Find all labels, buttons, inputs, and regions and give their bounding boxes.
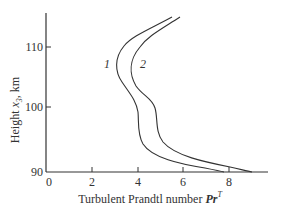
y-tick-label-90: 90 [31,165,43,179]
chart-canvas: 110 100 90 0 2 4 6 8 1 2 Height x3, km T… [0,0,281,210]
curve-label-1: 1 [104,57,110,71]
x-tick-label-0: 0 [46,175,52,189]
x-tick-label-6: 6 [180,175,186,189]
x-axis-title: Turbulent Prandtl number PrT [78,190,222,206]
x-tick-label-2: 2 [89,175,95,189]
x-ticks: 0 2 4 6 8 [46,167,232,189]
y-tick-label-100: 100 [25,100,43,114]
curve-label-2: 2 [140,57,146,71]
y-ticks: 110 100 90 [25,40,51,179]
x-tick-label-8: 8 [226,175,232,189]
curve-2 [131,17,252,172]
y-tick-label-110: 110 [25,40,43,54]
y-axis-title: Height x3, km [8,76,24,143]
x-tick-label-4: 4 [135,175,141,189]
